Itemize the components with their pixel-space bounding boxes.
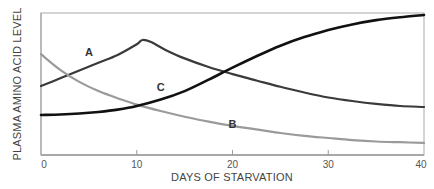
series-label-c: C: [157, 81, 165, 93]
plot-frame: [41, 13, 424, 155]
x-tick-label: 20: [227, 159, 239, 170]
x-tick-label: 40: [415, 159, 427, 170]
x-axis-ticks: 010203040: [41, 150, 427, 170]
series-line-a: [41, 40, 424, 107]
series-line-c: [41, 15, 424, 115]
x-tick-label: 10: [131, 159, 143, 170]
series-label-a: A: [85, 46, 93, 58]
series-label-b: B: [229, 118, 237, 130]
x-tick-label: 30: [323, 159, 335, 170]
y-axis-title: PLASMA AMINO ACID LEVEL: [11, 7, 23, 160]
x-axis-title: DAYS OF STARVATION: [171, 171, 293, 183]
x-tick-label: 0: [41, 159, 47, 170]
line-chart: 010203040 ABC DAYS OF STARVATION PLASMA …: [0, 0, 434, 189]
plot-border: [41, 13, 424, 155]
